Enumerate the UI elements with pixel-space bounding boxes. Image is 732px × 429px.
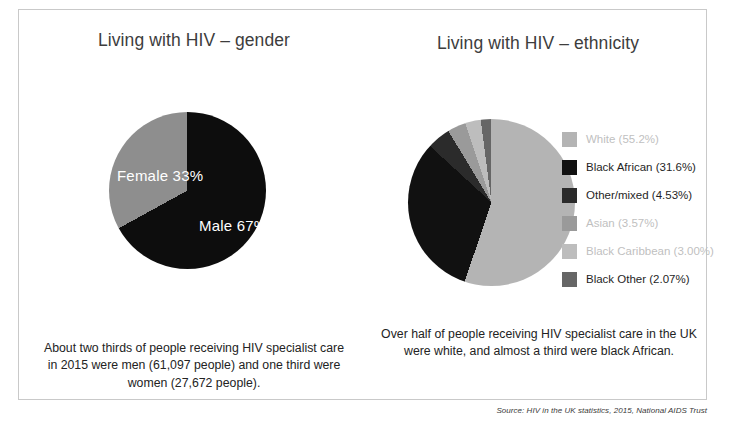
ethnicity-chart-title: Living with HIV – ethnicity bbox=[369, 33, 707, 54]
infographic-page: Living with HIV – gender Female 33% Male… bbox=[0, 0, 732, 429]
legend-item-label: Asian (3.57%) bbox=[586, 218, 658, 230]
legend-item[interactable]: Black Caribbean (3.00%) bbox=[562, 238, 712, 265]
legend-item-label: White (55.2%) bbox=[586, 134, 659, 146]
gender-caption: About two thirds of people receiving HIV… bbox=[39, 340, 349, 392]
legend-color-swatch bbox=[562, 132, 577, 147]
gender-chart-title: Living with HIV – gender bbox=[19, 30, 369, 51]
legend-color-swatch bbox=[562, 160, 577, 175]
legend-color-swatch bbox=[562, 272, 577, 287]
legend-color-swatch bbox=[562, 188, 577, 203]
legend-item-label: Black Other (2.07%) bbox=[586, 274, 690, 286]
legend-item[interactable]: Black Other (2.07%) bbox=[562, 266, 712, 293]
ethnicity-pie-chart bbox=[408, 119, 575, 286]
legend-item[interactable]: Asian (3.57%) bbox=[562, 210, 712, 237]
ethnicity-caption: Over half of people receiving HIV specia… bbox=[379, 326, 699, 361]
gender-pie-chart bbox=[109, 112, 266, 269]
pie-slice-label-male: Male 67% bbox=[199, 217, 267, 234]
ethnicity-panel: Living with HIV – ethnicity White (55.2%… bbox=[369, 9, 707, 400]
gender-panel: Living with HIV – gender Female 33% Male… bbox=[19, 9, 369, 400]
ethnicity-legend: White (55.2%)Black African (31.6%)Other/… bbox=[562, 126, 712, 294]
legend-item-label: Black African (31.6%) bbox=[586, 162, 696, 174]
legend-color-swatch bbox=[562, 216, 577, 231]
source-attribution: Source: HIV in the UK statistics, 2015, … bbox=[496, 406, 707, 415]
legend-item-label: Black Caribbean (3.00%) bbox=[586, 246, 714, 258]
legend-color-swatch bbox=[562, 244, 577, 259]
legend-item[interactable]: White (55.2%) bbox=[562, 126, 712, 153]
legend-item[interactable]: Other/mixed (4.53%) bbox=[562, 182, 712, 209]
legend-item-label: Other/mixed (4.53%) bbox=[586, 190, 692, 202]
pie-slice-label-female: Female 33% bbox=[117, 167, 203, 184]
legend-item[interactable]: Black African (31.6%) bbox=[562, 154, 712, 181]
